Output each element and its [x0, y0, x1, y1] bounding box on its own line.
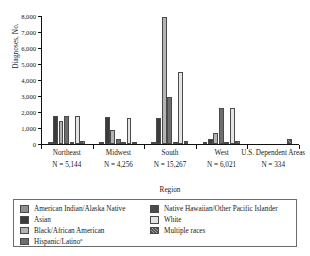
- y-tick-label: 4,000: [3, 77, 36, 84]
- y-tick-mark: [38, 128, 41, 129]
- bar: [105, 117, 110, 144]
- x-axis-group-labels: NortheastN = 5,144MidwestN = 4,256SouthN…: [41, 149, 299, 189]
- bar: [208, 139, 213, 144]
- x-axis-line: [41, 144, 299, 145]
- x-group-label: U.S. Dependent AreasN = 334: [239, 149, 307, 169]
- bar: [151, 142, 156, 144]
- legend-label: Hispanic/Latinoa: [34, 236, 83, 246]
- legend-swatch-icon: [20, 227, 29, 235]
- legend-label: Multiple races: [164, 227, 205, 235]
- legend-column-left: American Indian/Alaska NativeAsianBlack/…: [20, 204, 125, 247]
- x-axis-label: Region: [41, 186, 299, 194]
- legend-swatch-icon: [20, 216, 29, 224]
- bar: [70, 142, 75, 144]
- legend-item: White: [150, 215, 278, 225]
- bar: [203, 142, 208, 144]
- y-tick-mark: [38, 48, 41, 49]
- legend-item: Asian: [20, 215, 125, 225]
- legend-item: Hispanic/Latinoa: [20, 236, 125, 246]
- bar: [230, 108, 235, 144]
- y-tick-label: 2,000: [3, 109, 36, 116]
- bar: [224, 142, 229, 144]
- bar: [162, 17, 167, 144]
- legend-column-right: Native Hawaiian/Other Pacific IslanderWh…: [150, 204, 278, 236]
- legend-label: American Indian/Alaska Native: [34, 205, 125, 213]
- bar: [53, 116, 58, 144]
- legend-label: Asian: [34, 216, 51, 224]
- y-tick-label: 7,000: [3, 29, 36, 36]
- bar: [184, 141, 189, 144]
- y-axis-line: [41, 16, 42, 145]
- legend-label: Black/African American: [34, 227, 104, 235]
- bar: [156, 118, 161, 144]
- bar: [167, 97, 172, 144]
- bar: [121, 142, 126, 144]
- bar: [80, 141, 85, 144]
- y-tick-label: 6,000: [3, 45, 36, 52]
- legend-swatch-icon: [150, 227, 159, 235]
- bar: [219, 108, 224, 144]
- bar: [64, 116, 69, 144]
- bar: [127, 118, 132, 144]
- legend-item: Multiple races: [150, 226, 278, 236]
- y-tick-label: 8,000: [3, 13, 36, 20]
- chart-legend: American Indian/Alaska NativeAsianBlack/…: [13, 199, 297, 247]
- legend-swatch-icon: [150, 205, 159, 213]
- y-tick-mark: [38, 32, 41, 33]
- bar: [59, 121, 64, 144]
- legend-item: Native Hawaiian/Other Pacific Islander: [150, 204, 278, 214]
- bar: [178, 72, 183, 144]
- legend-swatch-icon: [20, 238, 29, 246]
- y-tick-mark: [38, 64, 41, 65]
- bar-chart-figure: Diagnoses, No. 01,0002,0003,0004,0005,00…: [0, 0, 310, 256]
- legend-label: Native Hawaiian/Other Pacific Islander: [164, 205, 278, 213]
- legend-label: White: [164, 216, 182, 224]
- bar: [235, 141, 240, 144]
- y-tick-mark: [38, 16, 41, 17]
- y-tick-label: 1,000: [3, 125, 36, 132]
- bar: [173, 142, 178, 144]
- bar: [75, 116, 80, 144]
- bar: [213, 133, 218, 144]
- y-tick-label: 5,000: [3, 61, 36, 68]
- y-tick-label: 3,000: [3, 93, 36, 100]
- bar: [132, 142, 137, 144]
- bar: [48, 142, 53, 144]
- legend-item: American Indian/Alaska Native: [20, 204, 125, 214]
- y-tick-mark: [38, 80, 41, 81]
- bar: [287, 139, 292, 144]
- legend-swatch-icon: [150, 216, 159, 224]
- bar: [99, 142, 104, 144]
- y-tick-label: 0: [3, 141, 36, 148]
- chart-axes: 01,0002,0003,0004,0005,0006,0007,0008,00…: [41, 16, 299, 145]
- legend-swatch-icon: [20, 205, 29, 213]
- bar: [116, 139, 121, 144]
- x-group-count: N = 334: [239, 161, 307, 169]
- legend-footnote-marker: a: [80, 237, 82, 242]
- x-group-name: U.S. Dependent Areas: [239, 149, 307, 157]
- plot-area: Diagnoses, No. 01,0002,0003,0004,0005,00…: [0, 0, 310, 196]
- y-tick-mark: [38, 112, 41, 113]
- legend-item: Black/African American: [20, 226, 125, 236]
- bar: [110, 130, 115, 144]
- y-tick-mark: [38, 96, 41, 97]
